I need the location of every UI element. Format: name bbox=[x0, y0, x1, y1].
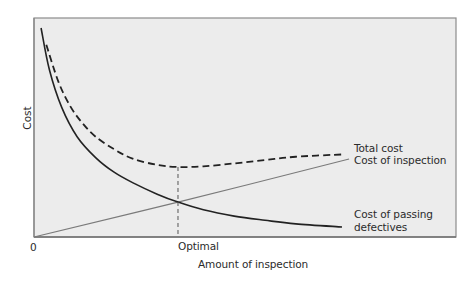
legend-cost-of-passing-defectives-line2: defectives bbox=[354, 221, 407, 233]
legend-cost-of-passing-defectives-line1: Cost of passing bbox=[354, 208, 433, 220]
y-axis-label: Cost bbox=[21, 104, 33, 132]
legend-cost-of-inspection: Cost of inspection bbox=[354, 154, 446, 166]
cost-curve-chart bbox=[0, 0, 471, 281]
origin-label: 0 bbox=[30, 241, 37, 253]
plot-background bbox=[34, 18, 456, 237]
legend-total-cost: Total cost bbox=[354, 142, 403, 154]
optimal-label: Optimal bbox=[178, 240, 219, 252]
x-axis-label: Amount of inspection bbox=[198, 258, 308, 270]
